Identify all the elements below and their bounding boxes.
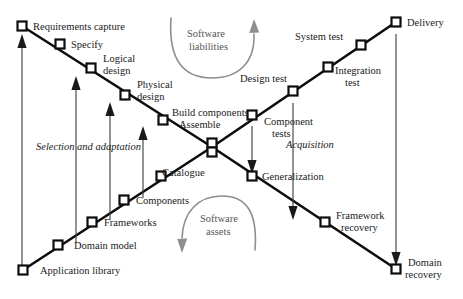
double-v-lifecycle-diagram: Requirements capture Specify Logical des… [0, 0, 463, 299]
node-crossing-lower[interactable] [208, 148, 217, 157]
label-component-tests-line1: Component [264, 116, 313, 127]
label-domain-model: Domain model [74, 240, 137, 251]
label-requirements-capture: Requirements capture [33, 21, 125, 32]
label-software-assets-line2: assets [206, 226, 231, 237]
label-framework-recovery-line2: recovery [341, 222, 378, 233]
node-domain-model[interactable] [54, 241, 63, 250]
label-integration-test-line1: Integration [335, 65, 382, 76]
label-logical-design-line1: Logical [103, 53, 135, 64]
label-software-liabilities-line1: Software [187, 28, 225, 39]
diagram-canvas: Requirements capture Specify Logical des… [0, 0, 463, 299]
label-catalogue: Catalogue [162, 167, 205, 178]
node-crossing-upper[interactable] [208, 139, 217, 148]
label-system-test: System test [295, 31, 343, 42]
node-integration-test[interactable] [357, 41, 366, 50]
reuse-assets-spine [23, 147, 212, 270]
node-build-components[interactable] [159, 116, 168, 125]
node-application-library[interactable] [19, 266, 28, 275]
label-software-liabilities-line2: liabilities [189, 41, 228, 52]
node-domain-recovery[interactable] [392, 265, 401, 274]
node-generalization[interactable] [248, 172, 257, 181]
label-integration-test-line2: test [345, 77, 360, 88]
node-frameworks[interactable] [88, 218, 97, 227]
arrow-head-up [105, 102, 114, 116]
node-physical-design[interactable] [121, 91, 130, 100]
arrow-head-up [17, 34, 26, 48]
arrow-components-to-physical-design [138, 126, 147, 198]
label-physical-design-line2: design [137, 91, 165, 102]
node-requirements-capture[interactable] [18, 22, 27, 31]
label-software-assets-line1: Software [200, 213, 238, 224]
arrow-frameworks-to-logical-design [105, 102, 114, 220]
arc-arrow-head-up [249, 19, 259, 33]
label-acquisition: Acquisition [285, 139, 334, 150]
label-generalization: Generalization [262, 171, 325, 182]
label-components: Components [136, 195, 189, 206]
arrow-application-library-to-requirements [17, 34, 26, 268]
label-frameworks: Frameworks [104, 217, 157, 228]
label-domain-recovery-line2: recovery [405, 269, 442, 280]
arrow-delivery-to-domain-recovery [391, 34, 400, 266]
arrow-head-up [71, 76, 80, 90]
arrow-head-down [288, 206, 297, 220]
label-design-test: Design test [240, 73, 287, 84]
node-components[interactable] [120, 196, 129, 205]
label-selection-and-adaptation: Selection and adaptation [36, 141, 141, 152]
node-logical-design[interactable] [87, 64, 96, 73]
recovery-spine [212, 147, 396, 269]
label-build-components: Build components [172, 107, 249, 118]
label-framework-recovery-line1: Framework [336, 210, 385, 221]
phase-label-group: Selection and adaptation Acquisition [36, 139, 334, 152]
label-application-library: Application library [40, 265, 121, 276]
label-component-tests-line2: tests [272, 128, 291, 139]
arc-arrow-head-down [177, 239, 187, 254]
node-specify[interactable] [56, 40, 65, 49]
node-component-tests[interactable] [248, 111, 257, 120]
label-delivery: Delivery [407, 17, 444, 28]
arrow-component-tests-to-generalization [247, 126, 256, 174]
arrow-domain-model-to-specify [71, 76, 80, 243]
label-assemble: Assemble [179, 119, 221, 130]
label-physical-design-line1: Physical [137, 79, 173, 90]
node-framework-recovery[interactable] [321, 218, 330, 227]
node-delivery[interactable] [392, 18, 401, 27]
node-system-test[interactable] [324, 63, 333, 72]
label-domain-recovery-line1: Domain [408, 257, 443, 268]
label-specify: Specify [71, 39, 104, 50]
arrow-head-up [138, 126, 147, 140]
label-logical-design-line2: design [103, 65, 131, 76]
node-design-test[interactable] [289, 87, 298, 96]
